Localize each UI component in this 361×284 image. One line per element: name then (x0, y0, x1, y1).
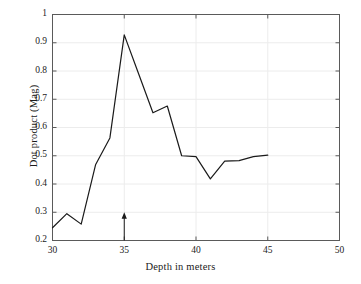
y-axis-tick-label: 0.4 (8, 178, 47, 188)
arrow-head (122, 212, 127, 219)
x-axis-tick-label: 30 (38, 245, 68, 255)
data-series-line (53, 35, 268, 228)
y-axis-tick-label: 0.2 (8, 234, 47, 244)
y-axis-tick-label: 0.6 (8, 121, 47, 131)
chart-figure: Dot product (Mag) Depth in meters 0.20.3… (0, 0, 361, 284)
y-axis-tick-label: 0.7 (8, 93, 47, 103)
y-axis-tick-label: 0.3 (8, 206, 47, 216)
x-axis-tick-label: 35 (109, 245, 139, 255)
y-axis-tick-label: 0.5 (8, 149, 47, 159)
y-axis-tick-label: 0.9 (8, 36, 47, 46)
x-axis-tick-label: 50 (325, 245, 355, 255)
x-axis-title: Depth in meters (0, 261, 361, 272)
y-axis-tick-label: 0.8 (8, 65, 47, 75)
x-axis-tick-label: 45 (253, 245, 283, 255)
y-axis-tick-label: 1 (8, 8, 47, 18)
x-axis-tick-label: 40 (181, 245, 211, 255)
line-chart-plot (0, 0, 361, 284)
grid-lines (53, 15, 340, 241)
depth-marker-arrow-icon (122, 212, 127, 240)
